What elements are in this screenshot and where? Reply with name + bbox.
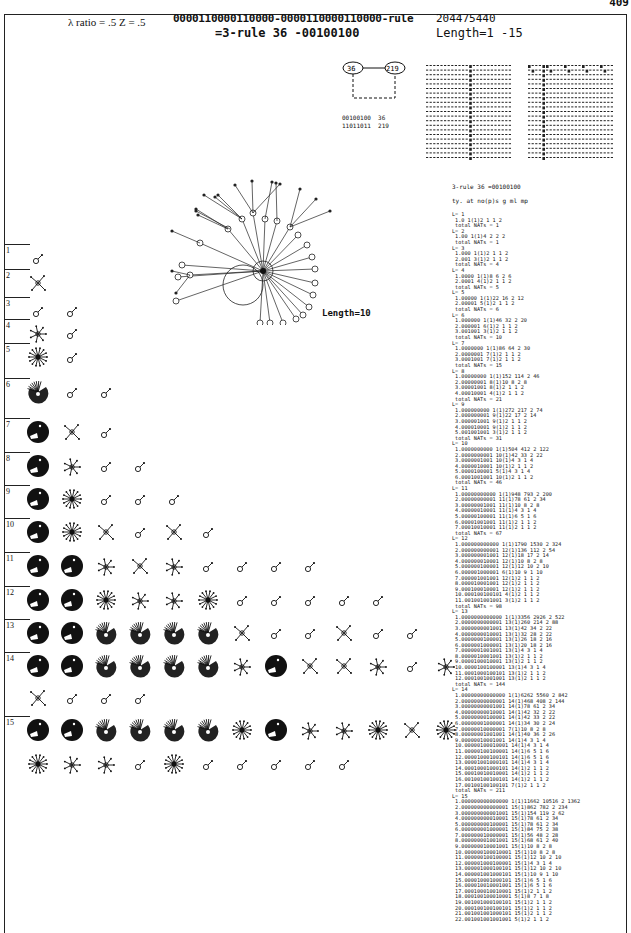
basin-fan-icon xyxy=(162,621,186,645)
basin-disc-icon xyxy=(26,520,50,544)
basin-disc-icon xyxy=(264,718,288,742)
row-label-length: 10 xyxy=(6,520,14,529)
basin-small-icon xyxy=(332,752,356,776)
basin-disc-icon xyxy=(26,554,50,578)
basin-star-icon xyxy=(128,588,152,612)
basin-small-icon xyxy=(264,588,288,612)
basin-small-icon xyxy=(298,588,322,612)
basin-small-icon xyxy=(264,621,288,645)
basin-small-icon xyxy=(60,686,84,710)
row-label-length: 5 xyxy=(6,345,10,354)
basin-small-icon xyxy=(128,752,152,776)
basin-disc-icon xyxy=(60,554,84,578)
row-label-length: 13 xyxy=(6,621,14,630)
spacetime-pattern-left xyxy=(426,62,516,162)
basin-star-icon xyxy=(60,752,84,776)
row-label-length: 9 xyxy=(6,487,10,496)
basin-small-icon xyxy=(196,752,220,776)
basin-burst-icon xyxy=(196,588,220,612)
basin-fan-icon xyxy=(196,621,220,645)
basin-star-icon xyxy=(94,752,118,776)
basin-small-icon xyxy=(264,752,288,776)
row-divider xyxy=(4,297,30,298)
basin-star-icon xyxy=(230,654,254,678)
row-label-length: 3 xyxy=(6,299,10,308)
row-divider xyxy=(4,452,30,453)
rule-node-36: 36 xyxy=(347,65,355,73)
basin-fan-icon xyxy=(26,380,50,404)
basin-small-icon xyxy=(128,454,152,478)
rule-number: 204475440 xyxy=(436,12,496,25)
basin-disc-icon xyxy=(26,588,50,612)
basin-fan-icon xyxy=(162,654,186,678)
row-divider xyxy=(4,716,30,717)
basin-small-icon xyxy=(94,686,118,710)
basin-small-icon xyxy=(60,321,84,345)
row-label-length: 15 xyxy=(6,718,14,727)
basin-small-icon xyxy=(298,621,322,645)
basin-star-icon xyxy=(162,588,186,612)
basin-small-icon xyxy=(196,520,220,544)
basin-fan-icon xyxy=(196,654,220,678)
basin-star-icon xyxy=(366,654,390,678)
row-divider xyxy=(4,652,30,653)
basin-cross-icon xyxy=(60,420,84,444)
row-divider xyxy=(4,586,30,587)
basin-data-column: 3-rule 36 =00100100 ty. at no(p)s g ml m… xyxy=(452,178,627,933)
basin-fan-icon xyxy=(128,718,152,742)
row-label-length: 7 xyxy=(6,420,10,429)
basin-small-icon xyxy=(264,554,288,578)
row-label-length: 1 xyxy=(6,246,10,255)
basin-cross-icon xyxy=(94,520,118,544)
basin-disc-icon xyxy=(60,588,84,612)
basin-burst-icon xyxy=(26,752,50,776)
basin-disc-icon xyxy=(26,420,50,444)
basin-cross-icon xyxy=(332,654,356,678)
basin-small-icon xyxy=(366,621,390,645)
basin-small-icon xyxy=(94,420,118,444)
basin-disc-icon xyxy=(26,487,50,511)
row-divider xyxy=(4,343,30,344)
row-divider xyxy=(4,619,30,620)
basin-star-icon xyxy=(298,718,322,742)
basin-cross-icon xyxy=(298,654,322,678)
length-range: Length=1 -15 xyxy=(436,26,523,40)
row-label-length: 11 xyxy=(6,554,14,563)
basin-burst-icon xyxy=(26,345,50,369)
data-column-text: L= 1 1.0 1(1)2 1 1 2 total NATs = 1 L= 2… xyxy=(452,212,627,922)
basin-cross-icon xyxy=(400,718,424,742)
basin-small-icon xyxy=(128,487,152,511)
basin-fan-icon xyxy=(94,621,118,645)
row-divider xyxy=(4,244,30,245)
basin-burst-icon xyxy=(60,520,84,544)
basin-fan-icon xyxy=(94,654,118,678)
basin-small-icon xyxy=(60,380,84,404)
basin-burst-icon xyxy=(60,487,84,511)
basin-fan-icon xyxy=(94,718,118,742)
basin-disc-icon xyxy=(60,621,84,645)
basin-small-icon xyxy=(230,588,254,612)
data-column-header: ty. at no(p)s g ml mp xyxy=(452,198,627,204)
basin-cross-icon xyxy=(162,520,186,544)
basin-disc-icon xyxy=(26,654,50,678)
basin-small-icon xyxy=(230,752,254,776)
basin-disc-icon xyxy=(26,718,50,742)
page-number: 409 xyxy=(609,0,629,9)
basin-small-icon xyxy=(94,380,118,404)
basin-cross-icon xyxy=(128,554,152,578)
basin-small-icon xyxy=(196,554,220,578)
main-field-label: Length=10 xyxy=(322,308,371,318)
basin-small-icon xyxy=(400,654,424,678)
basin-small-icon xyxy=(94,487,118,511)
row-label-length: 14 xyxy=(6,654,14,663)
basin-field-length-10 xyxy=(160,165,360,325)
basin-burst-icon xyxy=(94,588,118,612)
basin-small-icon xyxy=(128,686,152,710)
basin-small-icon xyxy=(400,621,424,645)
basin-disc-icon xyxy=(60,718,84,742)
basin-small-icon xyxy=(230,554,254,578)
rule-title-line2: =3-rule 36 -00100100 xyxy=(215,26,360,40)
basin-cross-icon xyxy=(332,621,356,645)
basin-fan-icon xyxy=(196,718,220,742)
basin-fan-icon xyxy=(128,654,152,678)
